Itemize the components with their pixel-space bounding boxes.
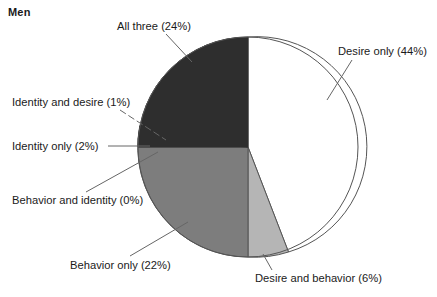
pie-label-identity-only: Identity only (2%) bbox=[12, 140, 98, 153]
pie-label-behavior-only: Behavior only (22%) bbox=[70, 259, 171, 272]
leader-line-all-three bbox=[166, 34, 192, 62]
pie-label-all-three: All three (24%) bbox=[117, 20, 191, 33]
pie-label-desire-only: Desire only (44%) bbox=[338, 45, 427, 58]
pie-label-identity-and-desire: Identity and desire (1%) bbox=[12, 96, 130, 109]
pie-label-behavior-and-identity: Behavior and identity (0%) bbox=[12, 194, 143, 207]
pie-label-desire-and-behavior: Desire and behavior (6%) bbox=[255, 272, 382, 285]
pie-slice-all-three bbox=[138, 37, 248, 147]
leader-line-behavior-only bbox=[130, 222, 188, 256]
pie-chart-figure: Men All three bbox=[0, 0, 437, 297]
